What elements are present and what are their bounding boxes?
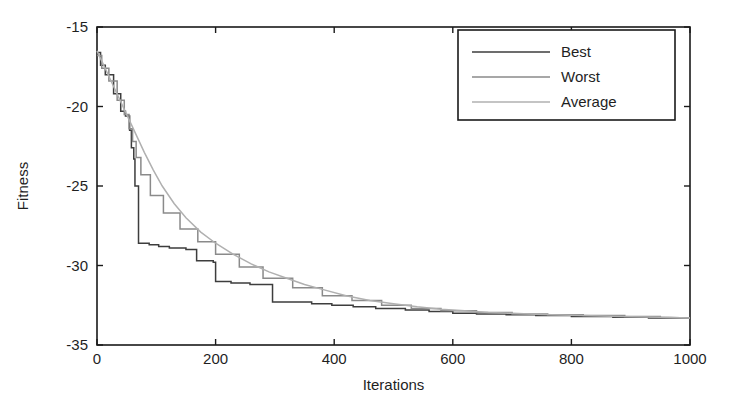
x-tick-label: 800 xyxy=(559,350,584,367)
fitness-convergence-chart: 02004006008001000 -35-30-25-20-15 Iterat… xyxy=(0,0,736,411)
x-tick-label: 400 xyxy=(322,350,347,367)
y-axis-title: Fitness xyxy=(14,162,31,210)
x-tick-label: 600 xyxy=(440,350,465,367)
chart-figure: 02004006008001000 -35-30-25-20-15 Iterat… xyxy=(0,0,736,411)
y-tick-label: -15 xyxy=(66,18,88,35)
x-tick-label: 0 xyxy=(93,350,101,367)
y-tick-label: -35 xyxy=(66,336,88,353)
legend-label-best: Best xyxy=(561,43,592,60)
chart-legend: BestWorstAverage xyxy=(458,30,675,120)
x-tick-label: 1000 xyxy=(673,350,706,367)
legend-label-worst: Worst xyxy=(561,68,601,85)
y-tick-label: -20 xyxy=(66,98,88,115)
x-axis-title: Iterations xyxy=(363,376,425,393)
legend-label-average: Average xyxy=(561,93,617,110)
y-tick-label: -25 xyxy=(66,177,88,194)
y-tick-label: -30 xyxy=(66,257,88,274)
x-tick-label: 200 xyxy=(203,350,228,367)
